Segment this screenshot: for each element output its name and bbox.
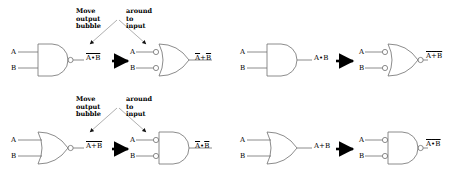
input-label-b: B — [359, 64, 364, 72]
result-term-b: B — [437, 52, 442, 60]
result-term-b: B — [204, 142, 209, 150]
annotation-move-output-bubble-bottom: Move output bubble — [76, 96, 101, 119]
input-label-b: B — [240, 152, 245, 160]
annotation-move-output-bubble-top: Move output bubble — [76, 8, 101, 31]
gate-output-label: A+B — [86, 142, 102, 150]
annotation-around-to-input-bottom: around to input — [126, 96, 152, 119]
annotation-line-3: input — [126, 111, 152, 119]
result-term-b: B — [435, 140, 440, 148]
result-output-label: A•B — [195, 142, 209, 150]
panel-top-right — [247, 44, 428, 76]
annotation-line-3: input — [126, 23, 152, 31]
input-label-a: A — [11, 136, 16, 144]
panel-top-left — [18, 20, 212, 76]
annotation-around-to-input-top: around to input — [126, 8, 152, 31]
gate-nand-inv-inputs-bottom-right — [365, 132, 428, 164]
input-label-a: A — [130, 48, 135, 56]
result-term-b: B — [206, 54, 211, 62]
demorgan-figure: Move output bubble around to input A B A… — [0, 0, 457, 177]
input-label-a: A — [359, 48, 364, 56]
input-label-b: B — [11, 64, 16, 72]
input-label-b: B — [240, 64, 245, 72]
figure-svg — [0, 0, 457, 177]
annotation-line-3: bubble — [76, 111, 101, 119]
input-label-a: A — [11, 48, 16, 56]
panel-bottom-left — [18, 108, 212, 164]
result-output-label: A•B — [426, 140, 440, 148]
gate-and-top-right — [247, 44, 312, 76]
input-label-b: B — [359, 152, 364, 160]
input-label-a: A — [240, 136, 245, 144]
input-label-a: A — [130, 136, 135, 144]
annotation-line-3: bubble — [76, 23, 101, 31]
input-label-b: B — [11, 152, 16, 160]
gate-output-label: A•B — [314, 54, 328, 62]
result-output-label: A+B — [426, 52, 442, 60]
gate-output-label: A+B — [314, 142, 330, 150]
input-label-a: A — [240, 48, 245, 56]
panel-bottom-right — [247, 132, 428, 164]
gate-output-label: A•B — [86, 54, 100, 62]
gate-nor-inv-inputs-top-right — [365, 44, 428, 76]
gate-nor-bottom-left — [18, 132, 84, 164]
result-output-label: A+B — [195, 54, 211, 62]
gate-or-bottom-right — [247, 132, 312, 164]
gate-nand-top-left — [18, 44, 84, 76]
input-label-a: A — [359, 136, 364, 144]
input-label-b: B — [130, 152, 135, 160]
input-label-b: B — [130, 64, 135, 72]
